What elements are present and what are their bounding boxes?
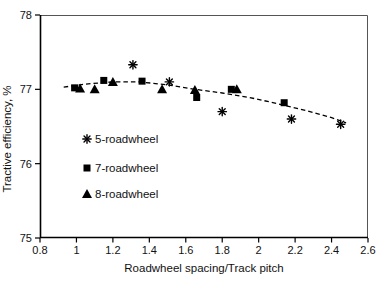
- point-asterisk-marker: [165, 78, 173, 86]
- x-axis-tick-label: 2.6: [360, 244, 375, 256]
- x-axis-tick-label: 1.8: [215, 244, 230, 256]
- x-axis-tick-label: 2: [256, 244, 262, 256]
- x-axis-tick-label: 2.4: [324, 244, 339, 256]
- legend-square-marker: [84, 165, 91, 172]
- legend-label-7-roadwheel: 7-roadwheel: [95, 162, 158, 174]
- legend-asterisk-marker: [83, 135, 91, 143]
- series-7-roadwheel: [71, 77, 288, 106]
- plot-border-top-right: [41, 16, 368, 239]
- chart-figure: 0.811.21.41.61.822.22.42.675767778 5-roa…: [0, 0, 379, 281]
- legend-triangle-marker: [82, 189, 92, 198]
- y-axis-tick-label: 77: [20, 83, 32, 95]
- series-5-roadwheel: [129, 61, 345, 129]
- legend-markers: [82, 135, 92, 198]
- x-axis-tick-label: 1: [73, 244, 79, 256]
- scatter-chart: 0.811.21.41.61.822.22.42.675767778 5-roa…: [0, 0, 379, 281]
- point-asterisk-marker: [287, 115, 295, 123]
- y-axis-tick-label: 78: [20, 9, 32, 21]
- point-square-marker: [193, 94, 200, 101]
- x-axis-tick-label: 0.8: [32, 244, 47, 256]
- trend-line: [64, 82, 346, 123]
- axis-ticks: 0.811.21.41.61.822.22.42.675767778: [20, 9, 376, 256]
- y-axis-tick-label: 75: [20, 232, 32, 244]
- point-triangle-marker: [157, 84, 167, 93]
- data-points: [71, 61, 345, 129]
- x-axis-tick-label: 1.4: [142, 244, 157, 256]
- axis-lines: [41, 15, 369, 238]
- y-axis-tick-label: 76: [20, 158, 32, 170]
- y-axis-title: Tractive efficiency, %: [1, 85, 13, 192]
- point-asterisk-marker: [336, 120, 344, 128]
- point-square-marker: [139, 78, 146, 85]
- legend-label-8-roadwheel: 8-roadwheel: [95, 188, 158, 200]
- legend: 5-roadwheel 7-roadwheel 8-roadwheel: [82, 133, 158, 200]
- legend-label-5-roadwheel: 5-roadwheel: [95, 133, 158, 145]
- x-axis-tick-label: 2.2: [287, 244, 302, 256]
- series-8-roadwheel: [75, 77, 242, 94]
- point-asterisk-marker: [129, 61, 137, 69]
- point-square-marker: [100, 77, 107, 84]
- x-axis-tick-label: 1.6: [178, 244, 193, 256]
- point-square-marker: [281, 99, 288, 106]
- point-triangle-marker: [90, 84, 100, 93]
- x-axis-tick-label: 1.2: [105, 244, 120, 256]
- point-asterisk-marker: [218, 107, 226, 115]
- x-axis-title: Roadwheel spacing/Track pitch: [124, 262, 283, 274]
